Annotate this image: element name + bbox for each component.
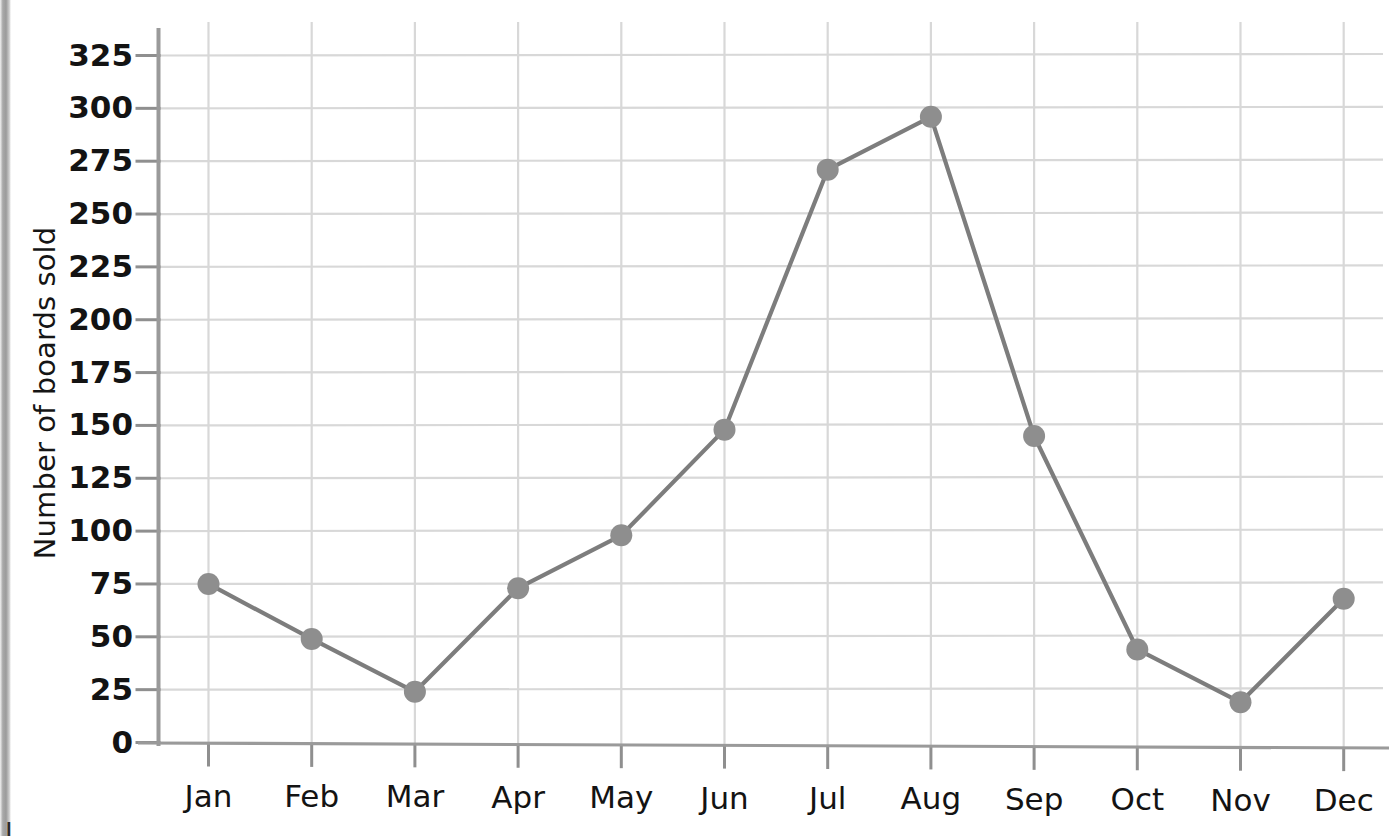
page-bleed-text: J bbox=[5, 818, 13, 836]
x-tick-label: Dec bbox=[1274, 785, 1389, 816]
x-axis-tick-labels: JanFebMarAprMayJunJulAugSepOctNovDec bbox=[0, 0, 1389, 836]
line-chart: Number of boards sold 025507510012515017… bbox=[0, 0, 1389, 836]
